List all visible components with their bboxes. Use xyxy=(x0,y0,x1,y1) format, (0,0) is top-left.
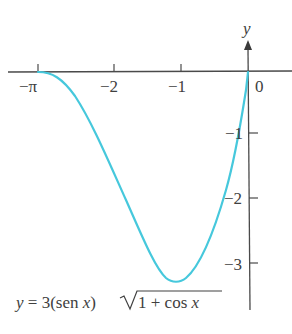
formula-radicand: 1 + cos xyxy=(138,293,192,312)
y-tick-label: −3 xyxy=(224,255,242,274)
function-curve xyxy=(38,72,248,282)
y-tick-label: −2 xyxy=(224,189,242,208)
svg-text:y = 3(sen x): y = 3(sen x) xyxy=(14,293,96,312)
formula-caption: y = 3(sen x) 1 + cos x xyxy=(14,291,222,312)
chart: y −π −2 −1 0 −1 −2 −3 y = 3(sen x) 1 + c… xyxy=(0,0,292,334)
formula-close: ) xyxy=(90,293,96,312)
x-axis xyxy=(8,71,292,72)
x-tick-label: −1 xyxy=(168,77,186,96)
x-tick-label: −2 xyxy=(100,77,118,96)
svg-text:1 + cos x: 1 + cos x xyxy=(138,293,200,312)
y-axis-arrow-icon xyxy=(244,40,252,50)
formula-y: y xyxy=(14,293,24,312)
formula-eq: = 3(sen xyxy=(24,293,83,312)
x-tick-label: −π xyxy=(19,77,38,96)
y-tick-label: −1 xyxy=(225,124,243,143)
formula-x2: x xyxy=(191,293,200,312)
y-axis-label: y xyxy=(241,19,251,38)
x-tick-label: 0 xyxy=(255,77,264,96)
y-axis xyxy=(248,48,250,310)
